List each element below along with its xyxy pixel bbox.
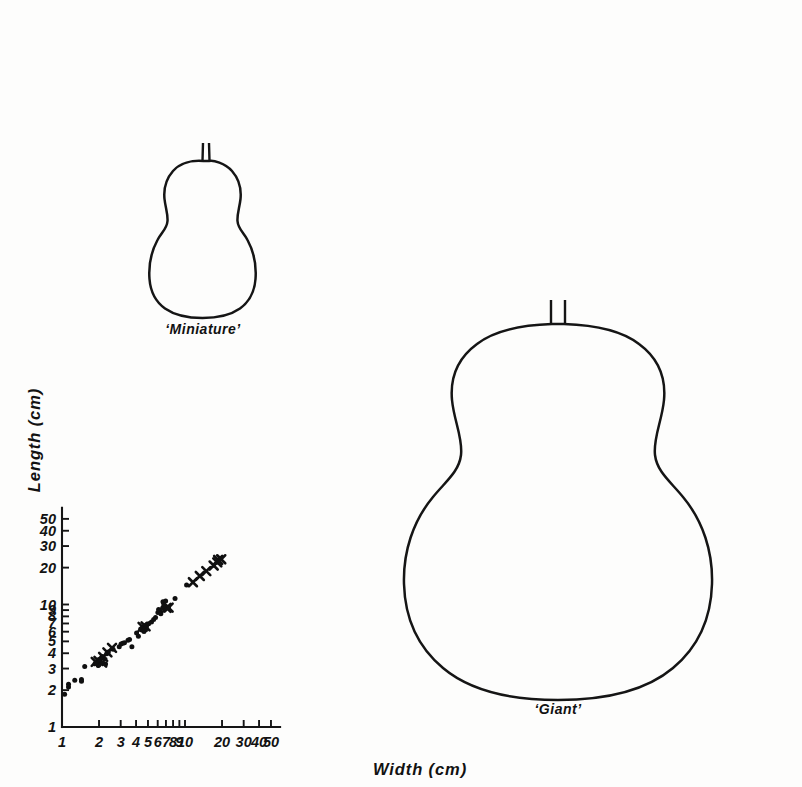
figure-page: 12345678910203040501234567891020304050 L… [0,0,802,787]
y-tick-label: 50 [40,511,56,527]
x-tick-label: 1 [58,734,66,750]
data-point-dot [127,637,132,642]
data-point-dot [62,692,67,697]
y-axis-title: Length (cm) [25,388,43,492]
y-tick-label: 20 [39,560,56,576]
giant-gourd-illustration: ‘Giant’ [404,300,712,717]
miniature-gourd-illustration: ‘Miniature’ [149,143,255,337]
y-tick-label: 10 [40,597,56,613]
x-tick-label: 4 [131,734,140,750]
data-point-dot [153,615,158,620]
x-axis-title: Width (cm) [373,760,467,778]
axis-ticks: 12345678910203040501234567891020304050 [39,511,279,750]
x-tick-label: 2 [94,734,103,750]
y-tick-label: 3 [48,661,56,677]
giant-gourd-stem [551,300,565,324]
x-tick-label: 30 [236,734,252,750]
x-tick-label: 50 [263,734,279,750]
scatter-plot: 12345678910203040501234567891020304050 L… [0,0,802,787]
data-point-dot [173,596,178,601]
x-tick-label: 20 [213,734,230,750]
data-point-dot [129,644,134,649]
data-point-dot [136,634,141,639]
giant-gourd-label: ‘Giant’ [534,701,582,717]
data-point-dot [82,664,87,669]
axes [62,508,280,727]
data-points [62,555,225,697]
data-point-dot [66,682,71,687]
data-point-dot [72,678,77,683]
miniature-gourd-label: ‘Miniature’ [165,321,241,337]
x-tick-label: 10 [177,734,193,750]
giant-gourd-body [404,324,712,700]
data-point-dot [79,679,84,684]
miniature-gourd-body [149,161,255,318]
y-tick-label: 30 [40,538,56,554]
x-tick-label: 5 [144,734,153,750]
miniature-gourd-stem [203,143,210,161]
y-tick-label: 1 [48,719,56,735]
y-tick-label: 2 [47,682,56,698]
x-tick-label: 3 [117,734,125,750]
